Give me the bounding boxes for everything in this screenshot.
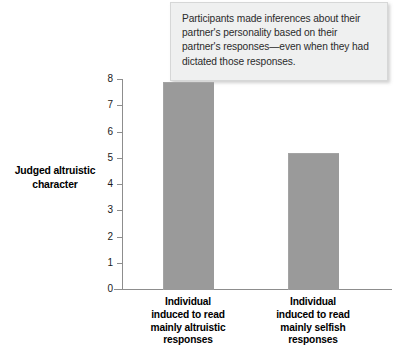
cat-1-line-3: mainly selfish bbox=[280, 322, 345, 333]
cat-0-line-3: mainly altruistic bbox=[150, 322, 225, 333]
y-axis-title-line-2: character bbox=[32, 179, 77, 190]
cat-1-line-1: Individual bbox=[290, 296, 336, 307]
y-tick-mark-3 bbox=[117, 210, 122, 211]
y-tick-mark-1 bbox=[117, 263, 122, 264]
bar-chart: Judged altruistic character 0 1 2 3 4 5 … bbox=[0, 0, 400, 354]
y-tick-label-1: 1 bbox=[95, 258, 113, 268]
y-tick-mark-2 bbox=[117, 237, 122, 238]
cat-1-line-2: induced to read bbox=[276, 309, 350, 320]
y-tick-mark-7 bbox=[117, 105, 122, 106]
cat-0-line-1: Individual bbox=[165, 296, 211, 307]
cat-1-line-4: responses bbox=[288, 334, 338, 345]
y-axis-title: Judged altruistic character bbox=[6, 164, 104, 191]
y-tick-label-2: 2 bbox=[95, 232, 113, 242]
y-tick-mark-6 bbox=[117, 132, 122, 133]
y-tick-mark-5 bbox=[117, 158, 122, 159]
y-tick-label-8: 8 bbox=[95, 74, 113, 84]
x-axis-category-label-0: Individual induced to read mainly altrui… bbox=[122, 296, 254, 347]
y-axis-line bbox=[122, 79, 123, 290]
y-tick-label-3: 3 bbox=[95, 205, 113, 215]
y-tick-mark-4 bbox=[117, 184, 122, 185]
y-tick-mark-8 bbox=[117, 79, 122, 80]
x-axis-category-label-1: Individual induced to read mainly selfis… bbox=[247, 296, 379, 347]
y-tick-label-4: 4 bbox=[95, 179, 113, 189]
y-tick-label-6: 6 bbox=[95, 127, 113, 137]
y-axis-title-line-1: Judged altruistic bbox=[15, 165, 96, 176]
y-tick-label-5: 5 bbox=[95, 153, 113, 163]
bar-altruistic[interactable] bbox=[163, 82, 214, 290]
y-tick-mark-0 bbox=[117, 289, 122, 290]
y-tick-label-0: 0 bbox=[95, 284, 113, 294]
y-tick-label-7: 7 bbox=[95, 100, 113, 110]
x-axis-line bbox=[114, 289, 392, 290]
bar-selfish[interactable] bbox=[288, 153, 339, 291]
cat-0-line-2: induced to read bbox=[151, 309, 225, 320]
cat-0-line-4: responses bbox=[163, 334, 213, 345]
